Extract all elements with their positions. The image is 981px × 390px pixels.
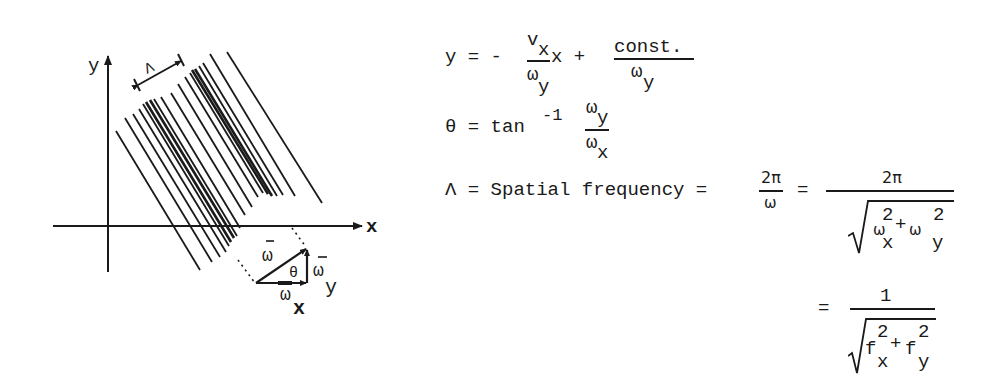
eq3-frac1-bar xyxy=(759,190,783,192)
omega-y-label: ω xyxy=(313,261,324,281)
eq3-frac1-den: ω xyxy=(764,196,777,211)
eq3-eq: = xyxy=(797,181,808,200)
eq3-frac2-bar xyxy=(826,190,954,192)
x-axis-label: x xyxy=(366,216,377,238)
eq1-frac2-bar xyxy=(614,58,694,60)
eq2-frac-bar xyxy=(585,129,609,131)
eq4-rad-a: f xyxy=(865,340,876,359)
eq4-rad-b: f xyxy=(905,340,916,359)
eq1-lhs: y = - xyxy=(445,48,502,67)
eq4-rad-b-sub: y xyxy=(918,353,929,372)
wavelength-bracket xyxy=(134,54,184,91)
y-axis-label: y xyxy=(88,55,99,77)
eq1-num-main: v xyxy=(527,31,538,50)
theta-label: θ xyxy=(289,265,298,282)
eq2-den-main: ω xyxy=(586,134,597,153)
eq3-rad-b-sup: 2 xyxy=(933,206,944,225)
eq1-den-main: ω xyxy=(527,66,538,85)
omega-x-label: ω xyxy=(280,285,291,305)
eq2-lhs: θ = tan xyxy=(445,118,525,137)
eq2-den-sub: x xyxy=(597,144,608,163)
eq3-frac1-num: 2π xyxy=(761,170,781,186)
omega-label: ω xyxy=(262,246,273,266)
eq1-num-sub: x xyxy=(538,41,549,60)
omega-y-subscript: y xyxy=(325,276,337,299)
eq4-rad-a-sup: 2 xyxy=(877,323,888,342)
eq3-lhs: Λ = Spatial frequency = xyxy=(445,181,707,200)
eq1-den2-main: ω xyxy=(631,63,642,82)
eq2-num-main: ω xyxy=(586,99,597,118)
eq1-num2: const. xyxy=(614,38,682,57)
eq4-plus: + xyxy=(890,335,901,354)
eq2-num-sub: y xyxy=(597,109,608,128)
eq4-num: 1 xyxy=(880,287,891,306)
eq4-rad-b-sup: 2 xyxy=(918,323,929,342)
eq3-frac2-num: 2π xyxy=(882,170,902,186)
grating-lines xyxy=(116,52,322,270)
eq1-frac-bar xyxy=(527,60,550,62)
eq4-frac-bar xyxy=(850,308,935,310)
eq1-den2-sub: y xyxy=(643,74,654,93)
eq3-plus: + xyxy=(895,216,906,235)
eq3-rad-a-sup: 2 xyxy=(882,206,893,225)
wavelength-label: Λ xyxy=(142,59,157,78)
eq1-den-sub: y xyxy=(538,78,549,97)
eq3-rad-b-sub: y xyxy=(932,234,943,253)
grating-diagram: y x Λ ω θ ω y ω x xyxy=(0,0,400,390)
eq4-eq: = xyxy=(818,299,829,318)
eq3-rad-a-sub: x xyxy=(882,234,893,253)
eq1-mid: x + xyxy=(551,48,585,67)
eq4-rad-a-sub: x xyxy=(877,353,888,372)
omega-x-subscript: x xyxy=(293,297,305,320)
eq2-sup: -1 xyxy=(542,107,562,124)
eq3-rad-b: ω xyxy=(909,223,922,238)
